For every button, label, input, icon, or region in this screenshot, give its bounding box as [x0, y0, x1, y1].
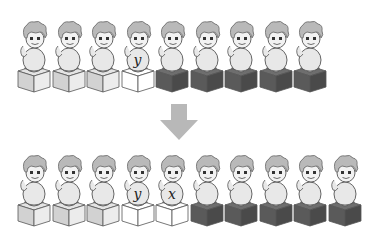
- child-on-cube-1: [16, 154, 52, 230]
- down-arrow-icon: [160, 104, 198, 140]
- child-on-cube-10: [327, 154, 363, 230]
- child-on-cube-4: y: [120, 154, 156, 230]
- figure-label: x: [154, 187, 190, 201]
- child-on-cube-3: [85, 20, 121, 96]
- child-on-cube-8: [258, 20, 294, 96]
- child-on-cube-5: [154, 20, 190, 96]
- figure-label: y: [120, 53, 156, 67]
- child-on-cube-9: [292, 20, 328, 96]
- child-on-cube-4: y: [120, 20, 156, 96]
- child-on-cube-9: [292, 154, 328, 230]
- child-on-cube-8: [258, 154, 294, 230]
- figure-label: y: [120, 187, 156, 201]
- child-on-cube-3: [85, 154, 121, 230]
- top-row: y: [0, 20, 379, 96]
- child-on-cube-5: x: [154, 154, 190, 230]
- child-on-cube-7: [223, 20, 259, 96]
- child-on-cube-1: [16, 20, 52, 96]
- child-on-cube-2: [51, 154, 87, 230]
- bottom-row: y x: [0, 154, 379, 230]
- child-on-cube-6: [189, 154, 225, 230]
- child-on-cube-7: [223, 154, 259, 230]
- child-on-cube-6: [189, 20, 225, 96]
- child-on-cube-2: [51, 20, 87, 96]
